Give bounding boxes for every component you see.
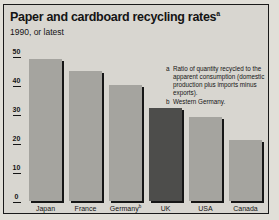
- footnote-marker: b: [166, 98, 173, 106]
- x-axis-label-text: Germany: [110, 205, 139, 212]
- y-tick: 30: [10, 106, 23, 117]
- footnote-text: Ratio of quantity recycled to the appare…: [173, 65, 271, 97]
- y-tick-label: 50: [13, 48, 21, 56]
- x-axis-label-text: Canada: [233, 205, 258, 212]
- y-tick-dash: [13, 57, 21, 59]
- y-tick-label: 0: [15, 193, 19, 201]
- y-tick: 40: [10, 77, 23, 88]
- x-axis-label: France: [75, 205, 97, 213]
- footnotes: aRatio of quantity recycled to the appar…: [166, 65, 271, 107]
- bar-usa: [189, 117, 222, 201]
- bar-japan: [29, 59, 62, 201]
- chart-frame: Paper and cardboard recycling ratesa 199…: [3, 4, 269, 214]
- bar-france: [69, 71, 102, 202]
- x-axis-label-text: USA: [198, 205, 212, 212]
- y-tick: 0: [10, 193, 23, 204]
- y-tick-label: 20: [13, 135, 21, 143]
- plot-area: 50403020100 JapanFranceGermanybUKUSACana…: [4, 5, 268, 213]
- x-axis-label-text: France: [75, 205, 97, 212]
- footnote-text: Western Germany.: [173, 98, 271, 106]
- y-tick-dash: [13, 173, 21, 175]
- page-background: { "header": { "title": "Paper and cardbo…: [0, 0, 279, 220]
- y-tick-dash: [13, 202, 21, 204]
- bar-uk: [149, 108, 182, 201]
- x-axis-label: Japan: [36, 205, 55, 213]
- footnote-item: aRatio of quantity recycled to the appar…: [166, 65, 271, 97]
- y-tick-dash: [13, 144, 21, 146]
- y-tick-label: 40: [13, 77, 21, 85]
- y-tick: 20: [10, 135, 23, 146]
- y-tick-label: 30: [13, 106, 21, 114]
- x-axis-label: UK: [161, 205, 171, 213]
- y-tick-dash: [13, 115, 21, 117]
- y-tick-dash: [13, 86, 21, 88]
- bar-canada: [229, 140, 262, 201]
- x-axis-label-text: UK: [161, 205, 171, 212]
- footnote-item: bWestern Germany.: [166, 98, 271, 106]
- x-axis-label-text: Japan: [36, 205, 55, 212]
- y-tick: 50: [10, 48, 23, 59]
- bar-germany: [109, 85, 142, 201]
- x-axis-label: Canada: [233, 205, 258, 213]
- x-axis-label: USA: [198, 205, 212, 213]
- y-tick-label: 10: [13, 164, 21, 172]
- y-tick: 10: [10, 164, 23, 175]
- x-axis-label-superscript: b: [139, 204, 142, 209]
- footnote-marker: a: [166, 65, 173, 97]
- x-axis-label: Germanyb: [110, 205, 141, 213]
